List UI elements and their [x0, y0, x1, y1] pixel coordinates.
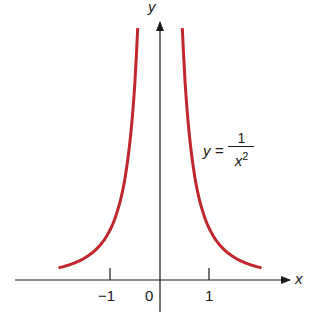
tick-label-neg1: −1	[98, 287, 115, 304]
tick-label-1: 1	[205, 287, 213, 304]
y-axis-label: y	[148, 0, 156, 15]
equation-numerator: 1	[238, 130, 246, 146]
tick-label-0: 0	[145, 287, 153, 304]
x-axis-label: x	[295, 270, 303, 287]
denominator-exponent: 2	[242, 150, 248, 162]
equation-lhs: y =	[203, 142, 223, 159]
denominator-base: x	[235, 152, 243, 169]
equation-denominator: x2	[235, 147, 249, 170]
equation-fraction: 1 x2	[228, 130, 254, 170]
function-plot	[0, 0, 317, 323]
curve-left-branch	[59, 28, 138, 268]
equation-label: y = 1 x2	[203, 130, 254, 170]
